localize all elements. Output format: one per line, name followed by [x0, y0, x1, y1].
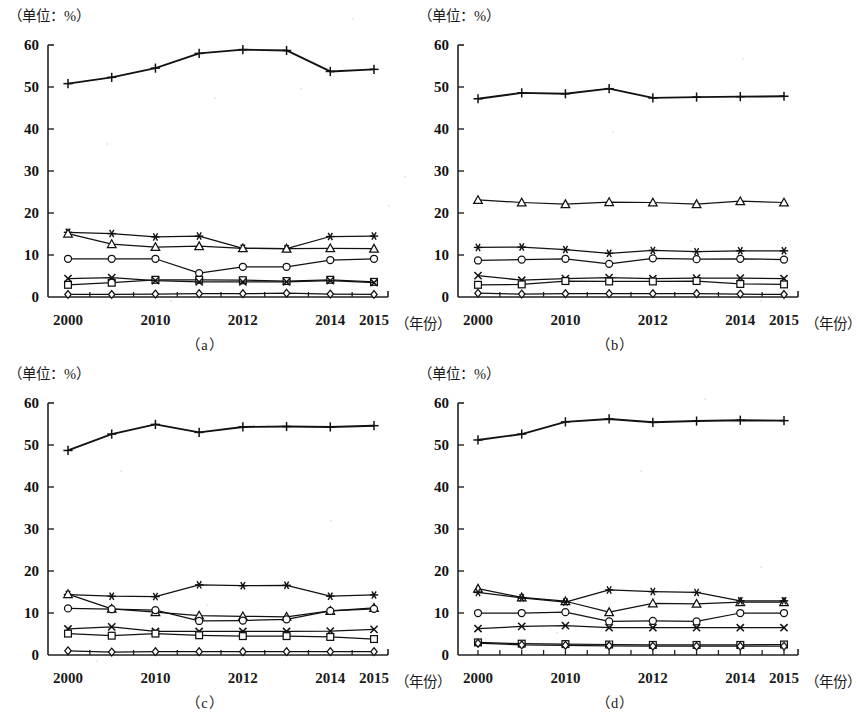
data-point-asterisk-marker [474, 244, 482, 251]
y-tick-label: 0 [442, 647, 450, 663]
scan-speck [240, 686, 242, 688]
data-point-plus-marker [326, 422, 335, 431]
data-point-square-marker [693, 278, 700, 285]
x-axis-labels-c: 20002010201220142015（年份） [0, 670, 410, 692]
x-tick-label: 2010 [140, 312, 170, 329]
plot-area-d: 0102030405060 [410, 384, 820, 669]
y-tick-label: 50 [434, 79, 449, 95]
data-point-square-marker [65, 630, 72, 637]
data-point-circle-marker [108, 255, 115, 262]
x-tick-label: 2015 [769, 312, 799, 329]
data-point-plus-marker [238, 422, 247, 431]
y-tick-label: 0 [32, 289, 40, 305]
data-point-plus-marker [238, 45, 247, 54]
data-point-circle-marker [518, 256, 525, 263]
y-tick-label: 30 [434, 163, 449, 179]
scan-speck [96, 660, 98, 662]
data-point-circle-marker [562, 609, 569, 616]
scan-speck [704, 398, 706, 400]
data-point-asterisk-marker [151, 233, 159, 240]
y-tick-label: 30 [24, 163, 39, 179]
scan-speck [760, 566, 762, 568]
y-tick-label: 40 [434, 479, 449, 495]
y-tick-label: 20 [434, 205, 449, 221]
plot-svg-b: 0102030405060 [410, 26, 820, 311]
x-tick-label: 2012 [228, 670, 258, 687]
x-tick-label: 2000 [463, 312, 493, 329]
data-point-square-marker [737, 281, 744, 288]
data-point-plus-marker [107, 73, 116, 82]
data-point-plus-marker [561, 89, 570, 98]
data-point-plus-marker [517, 429, 526, 438]
data-point-circle-marker [371, 255, 378, 262]
panel-caption-d: （d） [410, 691, 820, 712]
series-line-plus [68, 50, 374, 84]
data-point-square-marker [283, 633, 290, 640]
data-point-circle-marker [65, 255, 72, 262]
y-tick-label: 50 [434, 437, 449, 453]
data-point-circle-marker [65, 605, 72, 612]
y-tick-label: 10 [24, 247, 39, 263]
data-point-asterisk-marker [108, 230, 116, 237]
scan-speck [612, 131, 614, 133]
y-tick-label: 20 [434, 563, 449, 579]
data-point-square-marker [475, 281, 482, 288]
data-point-asterisk-marker [108, 593, 116, 600]
data-point-circle-marker [239, 263, 246, 270]
y-tick-label: 30 [434, 521, 449, 537]
plot-svg-d: 0102030405060 [410, 384, 820, 669]
data-point-plus-marker [648, 418, 657, 427]
scan-speck [690, 240, 692, 242]
y-tick-label: 60 [24, 395, 39, 411]
data-point-circle-marker [518, 610, 525, 617]
series-line-asterisk [68, 585, 374, 597]
y-axis-ticks-a: 0102030405060 [24, 37, 54, 305]
x-unit-label: （年份） [805, 312, 857, 333]
data-point-plus-marker [779, 92, 788, 101]
data-point-asterisk-marker [736, 247, 744, 254]
data-point-circle-marker [649, 255, 656, 262]
x-tick-label: 2014 [315, 670, 345, 687]
data-point-circle-marker [693, 618, 700, 625]
data-point-circle-marker [737, 255, 744, 262]
data-point-plus-marker [282, 422, 291, 431]
data-point-plus-marker [195, 49, 204, 58]
y-axis-ticks-b: 0102030405060 [434, 37, 464, 305]
data-point-plus-marker [473, 94, 482, 103]
data-point-circle-marker [152, 607, 159, 614]
data-point-plus-marker [779, 416, 788, 425]
scan-speck [556, 632, 558, 634]
data-point-asterisk-marker [518, 243, 526, 250]
scan-speck [36, 258, 38, 260]
panel-caption-a: （a） [0, 333, 410, 354]
data-point-plus-marker [63, 79, 72, 88]
data-point-circle-marker [781, 610, 788, 617]
y-unit-label-a: （单位：%） [8, 4, 90, 25]
data-point-plus-marker [561, 417, 570, 426]
scan-speck [214, 97, 216, 99]
data-point-asterisk-marker [195, 581, 203, 588]
scan-speck [300, 88, 302, 90]
y-axis-ticks-c: 0102030405060 [24, 395, 54, 663]
x-axis-labels-b: 20002010201220142015（年份） [410, 312, 820, 334]
chart-panel-c: （单位：%） 0102030405060 2000201020122014201… [0, 358, 410, 721]
y-tick-label: 30 [24, 521, 39, 537]
data-point-triangle-marker [64, 590, 73, 598]
data-point-square-marker [108, 632, 115, 639]
axes-c [48, 403, 388, 655]
data-point-plus-marker [605, 84, 614, 93]
scan-speck [120, 470, 122, 472]
data-point-square-marker [196, 632, 203, 639]
scan-speck [470, 290, 472, 292]
data-point-asterisk-marker [195, 232, 203, 239]
y-tick-label: 0 [442, 289, 450, 305]
y-tick-label: 40 [434, 121, 449, 137]
plot-area-c: 0102030405060 [0, 384, 410, 669]
x-tick-label: 2010 [550, 312, 580, 329]
x-tick-label: 2014 [725, 312, 755, 329]
panel-caption-c: （c） [0, 691, 410, 712]
data-point-asterisk-marker [649, 247, 657, 254]
data-point-circle-marker [693, 256, 700, 263]
y-unit-label-c: （单位：%） [8, 362, 90, 383]
data-point-diamond-marker [283, 289, 289, 297]
